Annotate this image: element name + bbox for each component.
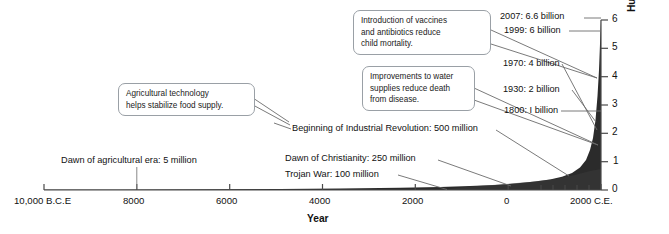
x-tick-label-8000: 8000 — [123, 196, 144, 206]
x-tick-label-6000: 6000 — [216, 196, 237, 206]
y-axis-title-text: Human population (billions) — [626, 0, 637, 12]
y-axis-ticks — [601, 20, 608, 190]
leader-industrial-revolution-right — [496, 130, 569, 176]
callout-line: from disease. — [370, 94, 468, 106]
y-tick-label-3: 3 — [612, 99, 618, 109]
chart-canvas — [0, 0, 669, 234]
leader-trojan-war — [398, 175, 447, 190]
callout-line: Agricultural technology — [126, 88, 248, 100]
y-tick-label-5: 5 — [612, 42, 618, 52]
y-tick-label-6: 6 — [612, 14, 618, 24]
x-tick-label-2000-bce: 2000 — [402, 196, 423, 206]
x-tick-label-4000: 4000 — [309, 196, 330, 206]
population-growth-chart: Agricultural technology helps stabilize … — [0, 0, 669, 234]
callout-line: supplies reduce death — [370, 83, 468, 95]
annotation-year-1999: 1999: 6 billion — [504, 26, 561, 35]
callout-agricultural-technology: Agricultural technology helps stabilize … — [118, 83, 255, 116]
callout-water-supplies: Improvements to water supplies reduce de… — [362, 66, 475, 111]
leader-christianity — [438, 160, 511, 186]
callout-line: helps stabilize food supply. — [126, 100, 248, 112]
y-tick-label-4: 4 — [612, 71, 618, 81]
leader-agricultural-technology — [253, 105, 290, 125]
y-tick-label-1: 1 — [613, 156, 619, 166]
annotation-industrial-revolution: Beginning of Industrial Revolution: 500 … — [292, 124, 478, 133]
callout-vaccines-antibiotics: Introduction of vaccines and antibiotics… — [353, 10, 491, 55]
y-tick-label-0: 0 — [612, 184, 618, 194]
annotation-year-1970: 1970: 4 billion — [503, 59, 560, 68]
x-tick-label-0: 0 — [504, 196, 509, 206]
leader-vaccines-antibiotics — [491, 30, 597, 78]
callout-line: and antibiotics reduce — [361, 27, 484, 39]
annotation-trojan-war: Trojan War: 100 million — [285, 170, 379, 179]
y-tick-label-2: 2 — [612, 127, 618, 137]
x-axis-title: Year — [307, 214, 329, 224]
leader-agricultural-technology-2 — [253, 98, 289, 122]
annotation-year-1930: 1930: 2 billion — [503, 85, 560, 94]
callout-line: Improvements to water — [370, 71, 468, 83]
callout-line: child mortality. — [361, 38, 484, 50]
callout-line: Introduction of vaccines — [361, 15, 484, 27]
annotation-year-2007: 2007: 6.6 billion — [500, 12, 564, 21]
y-axis-title: Human population (billions) — [626, 0, 640, 12]
leader-1970 — [562, 64, 597, 130]
x-tick-label-10000-bce: 10,000 B.C.E — [14, 196, 71, 206]
annotation-year-1800: 1800: I billion — [504, 106, 558, 115]
annotation-christianity: Dawn of Christianity: 250 million — [285, 154, 416, 163]
x-tick-label-2000-ce: 2000 C.E. — [570, 196, 613, 206]
annotation-agricultural-era: Dawn of agricultural era: 5 million — [61, 156, 197, 165]
